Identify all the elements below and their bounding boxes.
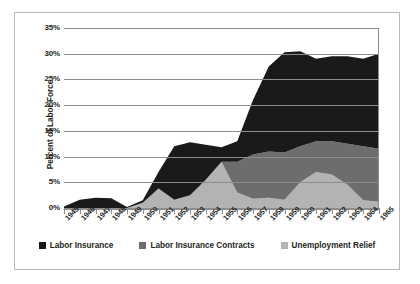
y-tick-label: 10% xyxy=(45,152,60,161)
y-tick-label: 25% xyxy=(45,74,60,83)
gridline-10% xyxy=(64,157,379,158)
y-tick-label: 30% xyxy=(45,49,60,58)
gridline-35% xyxy=(64,28,379,29)
legend-label: Labor Insurance Contracts xyxy=(150,241,254,250)
chart-legend: Labor InsuranceLabor Insurance Contracts… xyxy=(15,241,399,250)
y-tick-label: 20% xyxy=(45,100,60,109)
legend-swatch-icon xyxy=(281,242,288,249)
legend-label: Unemployment Relief xyxy=(292,241,376,250)
plot-area xyxy=(64,28,379,208)
gridline-15% xyxy=(64,131,379,132)
legend-item[interactable]: Unemployment Relief xyxy=(281,241,376,250)
y-tick-label: 35% xyxy=(45,23,60,32)
stacked-area-series-group xyxy=(64,28,379,208)
chart-figure: Percent of Labor Force 0%5%10%15%20%25%3… xyxy=(14,12,400,270)
gridline-25% xyxy=(64,79,379,80)
y-tick-label: 5% xyxy=(49,177,60,186)
x-tick-label: 1965 xyxy=(378,205,396,223)
legend-item[interactable]: Labor Insurance xyxy=(39,241,114,250)
y-axis-tick-labels: 0%5%10%15%20%25%30%35% xyxy=(29,28,60,208)
gridline-20% xyxy=(64,105,379,106)
y-tick-label: 15% xyxy=(45,126,60,135)
gridline-30% xyxy=(64,54,379,55)
legend-label: Labor Insurance xyxy=(50,241,114,250)
y-tick-label: 0% xyxy=(49,203,60,212)
legend-item[interactable]: Labor Insurance Contracts xyxy=(139,241,254,250)
legend-swatch-icon xyxy=(39,242,46,249)
legend-swatch-icon xyxy=(139,242,146,249)
gridline-5% xyxy=(64,182,379,183)
